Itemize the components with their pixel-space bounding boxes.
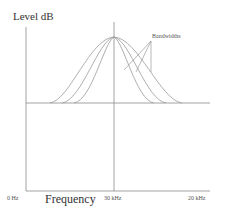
y-axis-label: Level dB xyxy=(13,10,54,22)
curve-wide-bandwidth xyxy=(50,37,182,103)
x-tick-0hz: 0 Hz xyxy=(7,195,19,201)
x-axis-label: Frequency xyxy=(45,192,96,207)
x-tick-20khz: 20 kHz xyxy=(188,195,206,201)
x-tick-30khz: 30 kHz xyxy=(104,195,122,201)
bandwidth-leader-line-2 xyxy=(136,41,151,72)
frequency-response-diagram xyxy=(0,0,225,215)
bandwidth-leader-line-1 xyxy=(124,41,151,70)
bandwidths-annotation: Bandwidths xyxy=(152,33,181,39)
